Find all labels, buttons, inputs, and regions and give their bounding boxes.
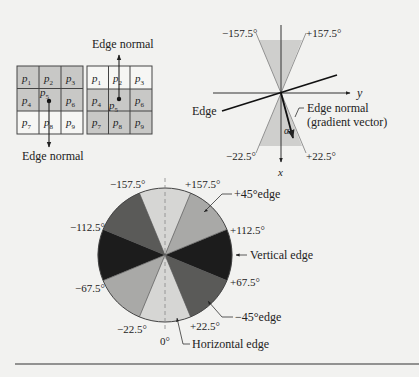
angle-label-plus-22: +22.5° — [306, 150, 336, 162]
angle-minus-22: −22.5° — [117, 323, 147, 335]
plus45-edge-label: +45°edge — [234, 187, 280, 201]
x-axis-label: x — [277, 166, 283, 178]
angle-label-minus-157: −157.5° — [222, 27, 257, 39]
left-edge-normal-label: Edge normal — [22, 149, 84, 163]
alpha-label: α — [284, 125, 290, 136]
right-pixel-grid: p1 p2 p3 p4 p5 p6 p7 p8 p9 Edge normal — [87, 37, 154, 134]
angle-label-plus-157: +157.5° — [306, 27, 341, 39]
angle-label-minus-22: −22.5° — [226, 150, 256, 162]
angle-plus-67: +67.5° — [230, 276, 260, 288]
y-axis-label: y — [356, 86, 363, 100]
angle-minus-67: −67.5° — [75, 282, 105, 294]
gradient-vector-label: (gradient vector) — [307, 115, 387, 129]
edge-direction-circle: −157.5° +157.5° −112.5° +112.5° −67.5° +… — [70, 178, 313, 351]
angle-plus-157: +157.5° — [185, 178, 220, 190]
right-edge-normal-label: Edge normal — [92, 37, 154, 51]
horizontal-edge-label: Horizontal edge — [192, 337, 269, 351]
angle-minus-112: −112.5° — [70, 221, 105, 233]
edge-label: Edge — [192, 104, 217, 118]
left-pixel-grid: p1 p2 p3 p4 p5 p6 p7 p8 p9 Edge normal — [17, 66, 84, 163]
edge-normal-label: Edge normal — [307, 101, 369, 115]
vertical-edge-label: Vertical edge — [250, 248, 313, 262]
minus45-edge-label: −45°edge — [235, 310, 281, 324]
gradient-axes-diagram: y x Edge Edge normal (gradient vector) α… — [192, 25, 387, 178]
angle-zero: 0° — [160, 335, 170, 347]
angle-minus-157: −157.5° — [110, 178, 145, 190]
angle-plus-112: +112.5° — [230, 224, 265, 236]
angle-plus-22: +22.5° — [190, 320, 220, 332]
